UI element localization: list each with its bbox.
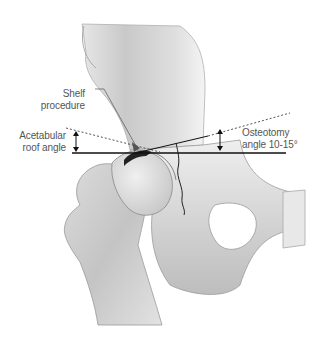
pubic-symphysis <box>283 190 305 248</box>
ilium-bone <box>82 24 205 150</box>
shelf-procedure-label: Shelf procedure <box>39 88 85 112</box>
acetabular-roof-angle-label: Acetabular roof angle <box>6 130 66 154</box>
acetabular-angle-arrow <box>73 131 79 152</box>
hip-joint-illustration <box>0 0 317 339</box>
osteotomy-angle-label: Osteotomy angle 10-15° <box>242 127 317 151</box>
